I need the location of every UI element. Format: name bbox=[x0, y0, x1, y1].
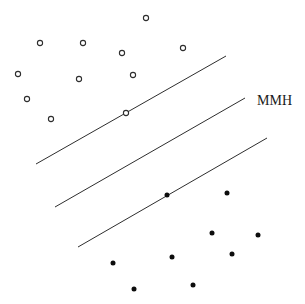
filled-dot-point bbox=[225, 191, 230, 196]
mmh-line bbox=[55, 98, 245, 207]
upper-margin-line bbox=[36, 56, 226, 164]
open-circle-point bbox=[48, 116, 53, 121]
filled-dot-point bbox=[256, 233, 261, 238]
filled-dot-point bbox=[165, 193, 170, 198]
svm-mmh-figure: MMH bbox=[0, 0, 305, 304]
open-circle-point bbox=[180, 45, 185, 50]
open-circle-point bbox=[24, 96, 29, 101]
filled-dot-point bbox=[111, 261, 116, 266]
open-circle-point bbox=[76, 76, 81, 81]
lower-margin-line bbox=[78, 138, 267, 247]
filled-dot-point bbox=[170, 255, 175, 260]
open-circle-point bbox=[143, 15, 148, 20]
filled-dot-point bbox=[132, 287, 137, 292]
mmh-label: MMH bbox=[257, 93, 292, 108]
open-circle-point bbox=[123, 110, 128, 115]
open-circle-point bbox=[15, 71, 20, 76]
open-circle-point bbox=[80, 40, 85, 45]
filled-dot-point bbox=[230, 252, 235, 257]
scatter-chart: MMH bbox=[0, 0, 305, 304]
open-circle-point bbox=[119, 50, 124, 55]
open-circle-point bbox=[130, 72, 135, 77]
filled-dot-point bbox=[191, 283, 196, 288]
open-circle-point bbox=[37, 40, 42, 45]
filled-dot-point bbox=[210, 231, 215, 236]
